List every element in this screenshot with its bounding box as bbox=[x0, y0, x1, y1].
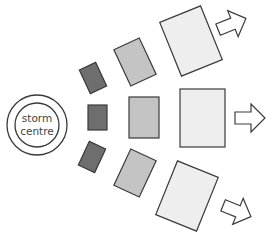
storm-centre-label-line1: storm bbox=[22, 112, 52, 124]
inner-box-middle bbox=[88, 105, 107, 130]
outer-box-bottom bbox=[156, 161, 219, 231]
inner-box-bottom bbox=[78, 141, 105, 172]
outer-box-middle bbox=[180, 89, 225, 147]
outer-band bbox=[156, 6, 225, 231]
storm-centre: storm centre bbox=[7, 95, 67, 155]
inner-band bbox=[78, 62, 107, 172]
middle-box-middle bbox=[129, 97, 159, 138]
middle-band bbox=[114, 38, 159, 197]
storm-centre-label-line2: centre bbox=[20, 125, 54, 137]
inner-box-top bbox=[79, 62, 106, 93]
arrow-right-icon bbox=[235, 104, 265, 132]
outer-box-top bbox=[160, 6, 223, 76]
middle-box-bottom bbox=[114, 149, 156, 197]
arrow-lower-right-icon bbox=[218, 192, 256, 229]
middle-box-top bbox=[114, 38, 156, 86]
arrow-upper-right-icon bbox=[213, 5, 251, 42]
storm-diagram: storm centre bbox=[0, 0, 275, 237]
